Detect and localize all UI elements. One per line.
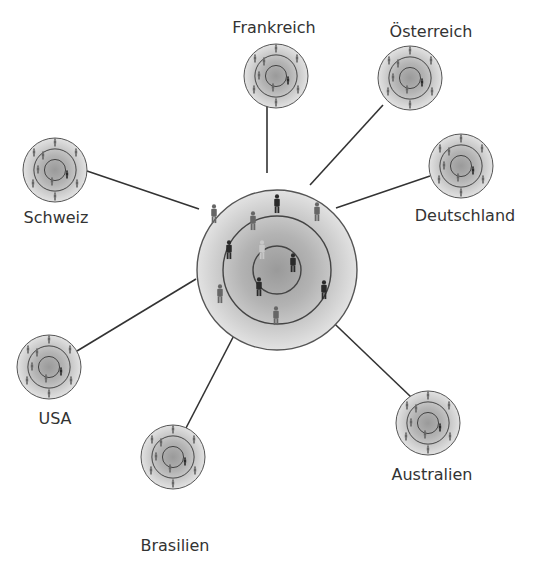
node-australien <box>396 391 460 455</box>
central-hub <box>197 190 357 350</box>
label-oesterreich: Österreich <box>390 23 473 41</box>
connection-line-oesterreich <box>310 105 383 185</box>
node-schweiz <box>23 138 87 202</box>
node-brasilien <box>141 425 205 489</box>
label-australien: Australien <box>392 466 473 484</box>
label-deutschland: Deutschland <box>415 207 515 225</box>
node-deutschland <box>429 134 493 198</box>
network-diagram: FrankreichÖsterreichDeutschlandSchweizUS… <box>0 0 538 575</box>
connection-line-usa <box>77 279 196 351</box>
label-frankreich: Frankreich <box>232 19 315 37</box>
connection-line-schweiz <box>87 171 199 209</box>
diagram-canvas <box>0 0 538 575</box>
label-usa: USA <box>38 410 71 428</box>
label-schweiz: Schweiz <box>24 209 89 227</box>
node-oesterreich <box>378 46 442 110</box>
node-usa <box>17 335 81 399</box>
label-brasilien: Brasilien <box>140 537 209 555</box>
connection-line-deutschland <box>336 176 430 208</box>
node-frankreich <box>244 44 308 108</box>
hub-central-network <box>197 190 357 350</box>
